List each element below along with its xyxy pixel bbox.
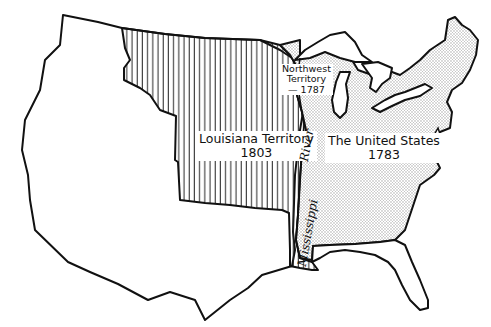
territory-map bbox=[0, 0, 491, 327]
united-states-year: 1783 bbox=[328, 148, 440, 162]
united-states-label: The United States 1783 bbox=[325, 133, 443, 163]
florida-region bbox=[312, 240, 428, 310]
united-states-name: The United States bbox=[328, 134, 440, 148]
louisiana-territory-name: Louisiana Territory bbox=[199, 132, 314, 146]
northwest-territory-year: — 1787 bbox=[282, 85, 331, 95]
northwest-territory-label: Northwest Territory — 1787 bbox=[280, 64, 333, 95]
